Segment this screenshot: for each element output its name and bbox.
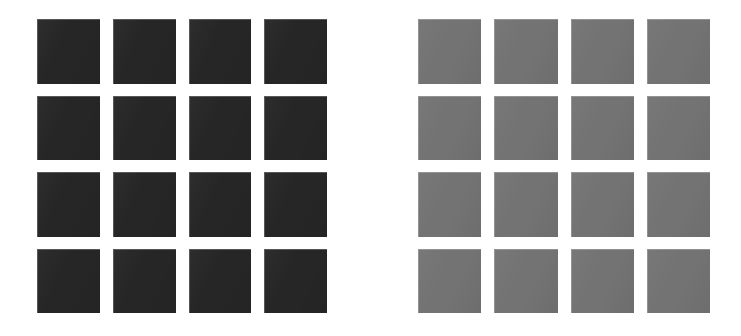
- swatch-r1-c4: [264, 19, 327, 84]
- swatch-r3-c2: [113, 172, 176, 237]
- swatch-r2-c4: [647, 96, 710, 161]
- swatch-r3-c1: [37, 172, 100, 237]
- swatch-r1-c2: [113, 19, 176, 84]
- swatch-r2-c3: [571, 96, 634, 161]
- swatch-r1-c1: [418, 19, 481, 84]
- dark-swatch-grid: [37, 19, 327, 313]
- swatch-r3-c3: [189, 172, 252, 237]
- swatch-r2-c4: [264, 96, 327, 161]
- swatch-r4-c2: [113, 249, 176, 314]
- gray-swatch-grid: [418, 19, 710, 313]
- swatch-r1-c1: [37, 19, 100, 84]
- swatch-r1-c4: [647, 19, 710, 84]
- swatch-r4-c3: [571, 249, 634, 314]
- swatch-r2-c2: [113, 96, 176, 161]
- swatch-r3-c4: [264, 172, 327, 237]
- swatch-r4-c3: [189, 249, 252, 314]
- swatch-r4-c1: [37, 249, 100, 314]
- swatch-r2-c1: [418, 96, 481, 161]
- swatch-r3-c3: [571, 172, 634, 237]
- swatch-r2-c2: [494, 96, 557, 161]
- swatch-r1-c2: [494, 19, 557, 84]
- swatch-r4-c4: [647, 249, 710, 314]
- swatch-r4-c1: [418, 249, 481, 314]
- figure-canvas: [0, 0, 741, 336]
- swatch-r4-c4: [264, 249, 327, 314]
- swatch-r4-c2: [494, 249, 557, 314]
- swatch-r3-c4: [647, 172, 710, 237]
- swatch-r1-c3: [189, 19, 252, 84]
- swatch-r1-c3: [571, 19, 634, 84]
- swatch-r2-c1: [37, 96, 100, 161]
- swatch-r2-c3: [189, 96, 252, 161]
- swatch-r3-c1: [418, 172, 481, 237]
- swatch-r3-c2: [494, 172, 557, 237]
